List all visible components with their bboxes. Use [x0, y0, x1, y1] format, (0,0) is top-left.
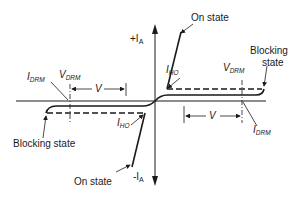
- i-ho-lower-sub: HO: [120, 122, 130, 129]
- i-drm-left-label: IDRM: [27, 72, 45, 82]
- on-state-line-upper: [167, 32, 181, 89]
- leader-i-ho-lower: [131, 115, 143, 125]
- v-drm-right-main: V: [223, 62, 230, 73]
- blocking-state-upper-label-2: state: [262, 58, 284, 68]
- blocking-state-lower-label: Blocking state: [13, 139, 75, 149]
- y-axis-down-arrow-icon: [152, 176, 158, 186]
- i-ho-lower-label: IHO: [117, 118, 130, 128]
- i-ho-upper-label: IHO: [166, 65, 179, 75]
- y-axis-up-arrow-icon: [152, 24, 158, 34]
- i-ho-upper-sub: HO: [169, 69, 179, 76]
- i-drm-left-sub: DRM: [30, 76, 45, 83]
- v-left-label: V: [95, 84, 102, 94]
- v-drm-right-label: VDRM: [223, 63, 244, 73]
- i-drm-right-sub: DRM: [256, 129, 271, 136]
- leader-blocking-upper: [264, 66, 267, 86]
- iv-characteristic-diagram: [0, 0, 301, 199]
- on-state-lower-label: On state: [74, 177, 112, 187]
- y-axis-positive-label: +IA: [130, 34, 143, 44]
- y-pos-main: +I: [130, 33, 139, 44]
- on-state-upper-label: On state: [191, 13, 229, 23]
- v-right-label: V: [209, 111, 216, 121]
- leader-on-state-upper: [181, 24, 193, 33]
- leader-i-drm-left: [51, 82, 68, 100]
- v-drm-right-sub: DRM: [230, 67, 245, 74]
- y-neg-sub: A: [139, 176, 144, 183]
- v-drm-left-main: V: [59, 69, 66, 80]
- v-drm-left-label: VDRM: [59, 70, 80, 80]
- i-drm-right-label: IDRM: [253, 125, 271, 135]
- leader-i-drm-right: [243, 102, 257, 126]
- y-pos-sub: A: [139, 38, 144, 45]
- v-drm-left-sub: DRM: [66, 74, 81, 81]
- blocking-state-upper-label-1: Blocking: [250, 46, 288, 56]
- on-state-line-lower: [132, 113, 145, 167]
- y-axis-negative-label: -IA: [133, 172, 144, 182]
- leader-on-state-lower: [116, 165, 130, 172]
- leader-blocking-lower: [43, 116, 46, 138]
